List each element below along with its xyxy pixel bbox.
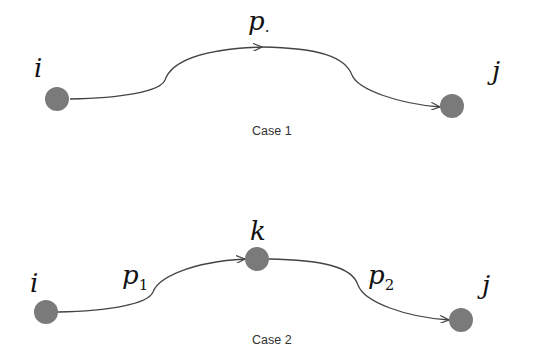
case1-path-label-sub: · <box>265 22 270 40</box>
case1-label-i: i <box>34 55 42 81</box>
case1-node-i <box>45 87 69 111</box>
case2-label-i: i <box>30 270 38 296</box>
case1-node-j <box>440 94 464 118</box>
case1-path-label-p: p <box>248 6 265 36</box>
case2-path2-label-p: p <box>368 260 385 290</box>
case2-path1-label-sub: 1 <box>139 276 149 294</box>
case2-caption: Case 2 <box>252 333 292 347</box>
case2-edge-k-j <box>269 259 449 320</box>
case2-node-i <box>34 300 58 324</box>
case2-path2-label-sub: 2 <box>385 276 395 294</box>
diagram-svg <box>0 0 543 359</box>
case1-caption: Case 1 <box>252 124 292 138</box>
case2-edge-i-k <box>58 259 245 312</box>
case1-path-label: p· <box>248 8 269 34</box>
case1-edge-i-j <box>70 47 262 99</box>
case2-node-k <box>245 247 269 271</box>
case2-label-j: j <box>482 272 490 298</box>
case2-node-j <box>449 308 473 332</box>
case1-label-j: j <box>492 58 500 84</box>
case2-path1-label-p: p <box>122 260 139 290</box>
case2-label-k: k <box>250 218 266 244</box>
diagram-canvas: i j p· Case 1 i k j p1 p2 Case 2 <box>0 0 543 359</box>
case2-path2-label: p2 <box>368 262 394 288</box>
case2-path1-label: p1 <box>122 262 148 288</box>
case1-edge-i-j-tail <box>262 47 440 107</box>
